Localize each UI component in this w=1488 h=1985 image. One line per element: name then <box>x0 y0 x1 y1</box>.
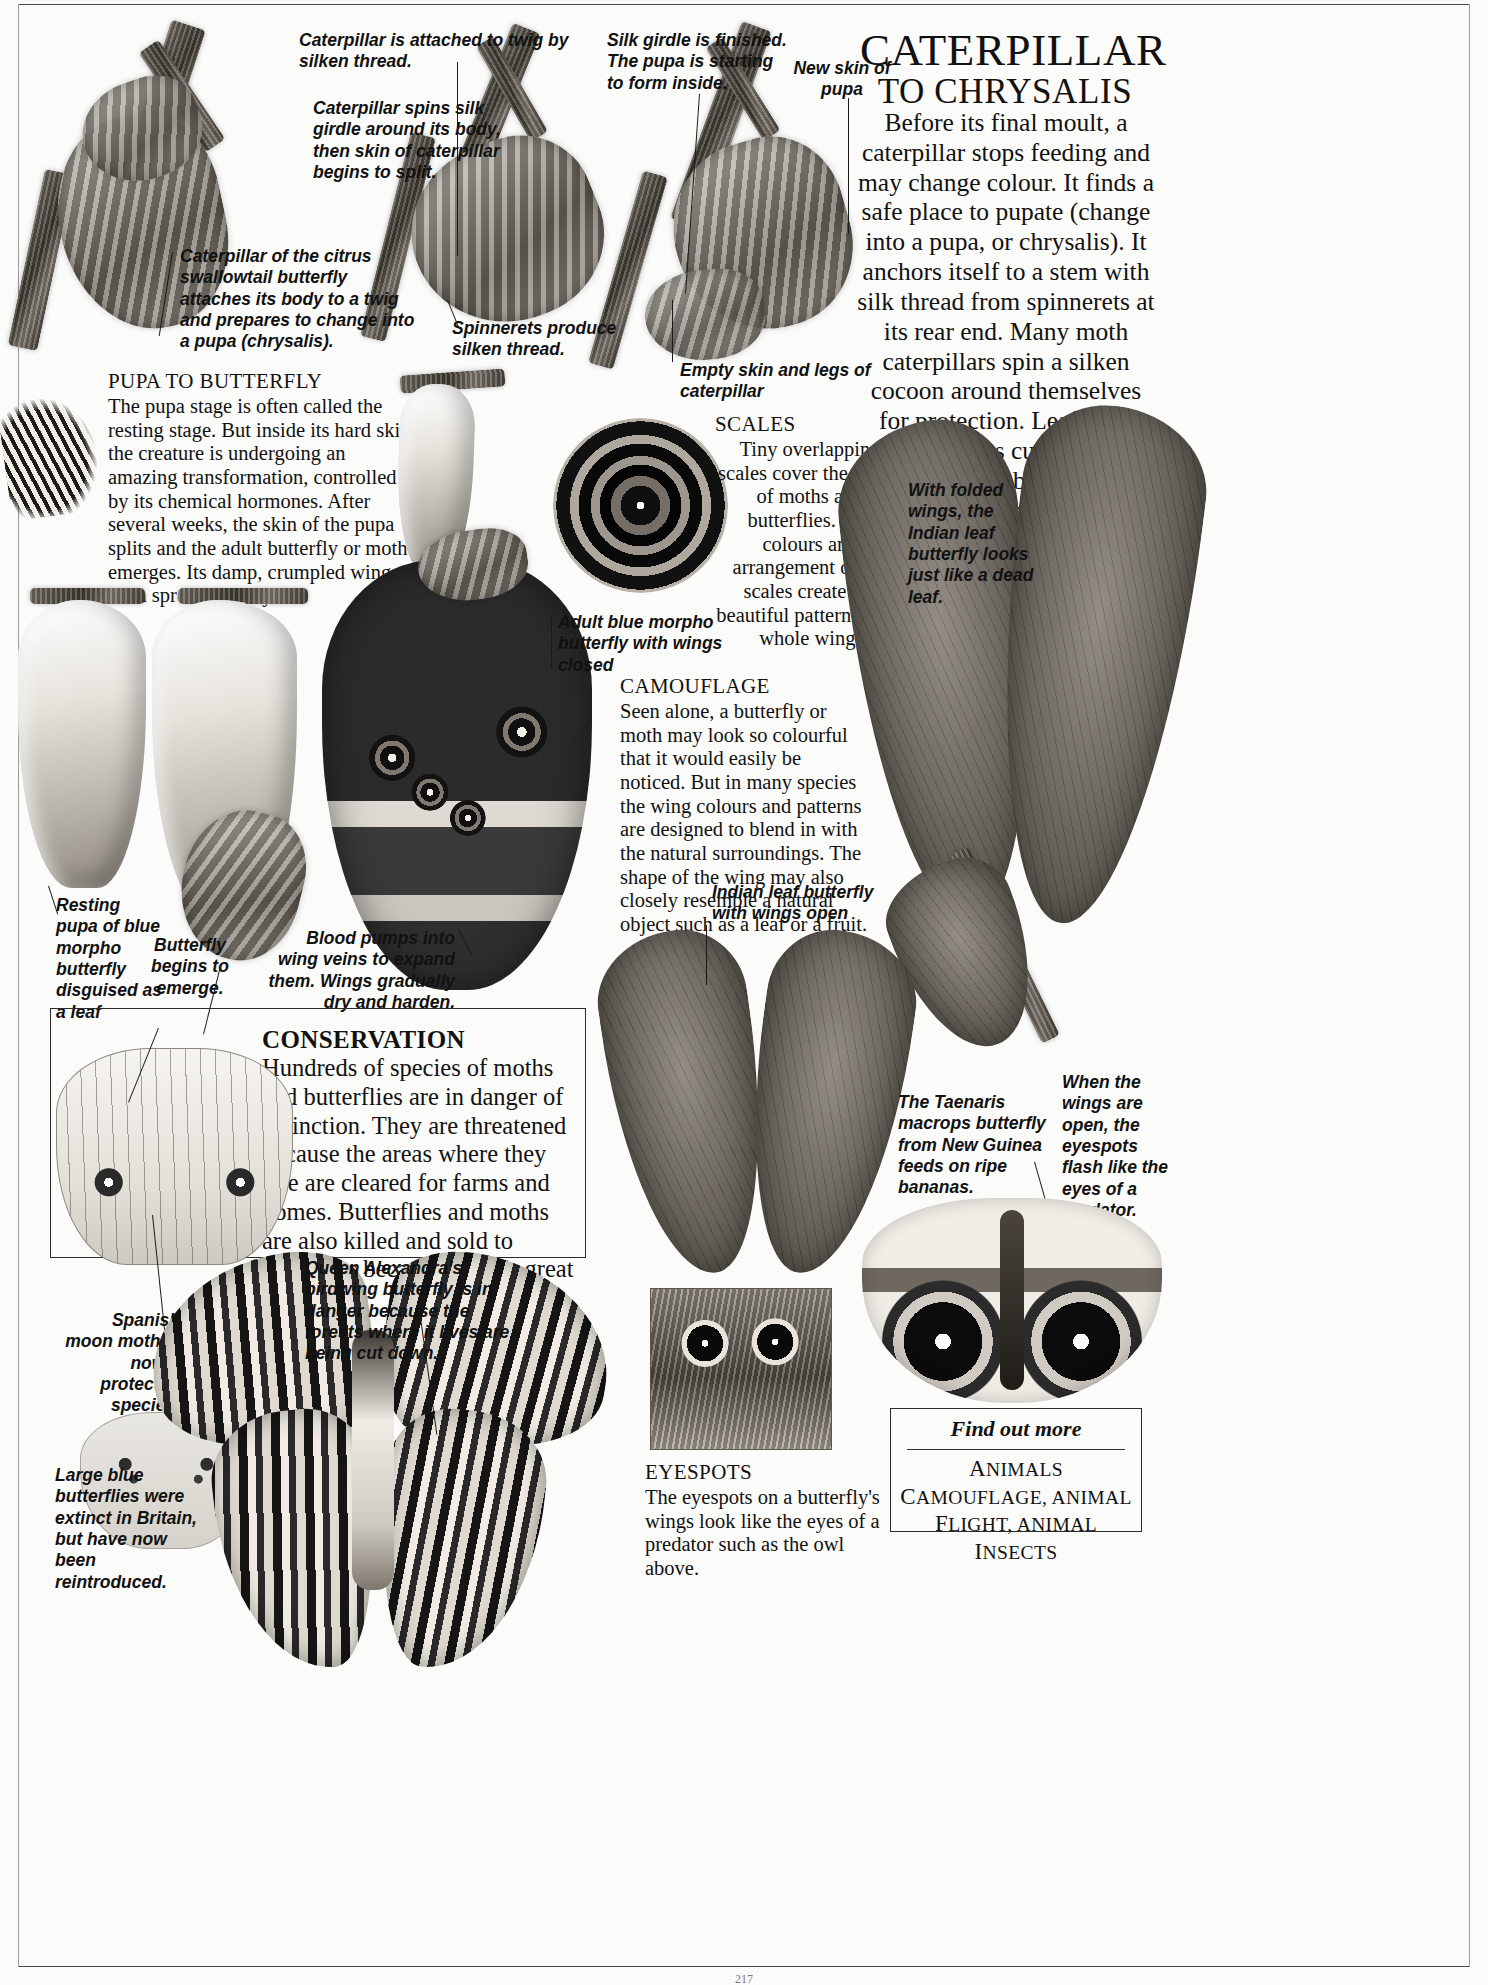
running-head: LIFE CYCLES AND REPRODUCTION <box>0 0 1488 2</box>
top-rule <box>18 4 1470 5</box>
photo-wing-scales-closeup <box>553 418 728 593</box>
folio-number: 217 <box>0 1972 1488 1985</box>
section-heading-eyespots: EYESPOTS <box>645 1460 880 1485</box>
section-eyespots: EYESPOTS The eyespots on a butterfly's w… <box>645 1460 880 1581</box>
caption-citrus-swallowtail: Caterpillar of the citrus swallowtail bu… <box>180 246 420 353</box>
caption-taenaris: The Taenaris macrops butterfly from New … <box>898 1092 1048 1199</box>
photo-birdwing-lower-right <box>367 1402 553 1677</box>
section-body-eyespots: The eyespots on a butterfly's wings look… <box>645 1486 880 1581</box>
find-out-more-list: Animals Camouflage, animal Flight, anima… <box>891 1455 1141 1573</box>
encyclopedia-page: LIFE CYCLES AND REPRODUCTION 217 Caterpi… <box>0 0 1488 1985</box>
photo-birdwing-body <box>352 1330 394 1590</box>
photo-twig-pupa-right <box>178 588 308 604</box>
caption-spinnerets: Spinnerets produce silken thread. <box>452 318 642 361</box>
photo-resting-pupa-1 <box>18 600 146 888</box>
section-heading-scales: SCALES <box>715 412 905 437</box>
section-pupa-to-butterfly: PUPA TO BUTTERFLY The pupa stage is ofte… <box>108 369 418 608</box>
page-title-line1: Caterpillar <box>860 25 1167 75</box>
leader-line <box>551 616 552 668</box>
bottom-rule <box>18 1966 1470 1967</box>
section-heading-camouflage: CAMOUFLAGE <box>620 674 870 699</box>
caption-indian-leaf-open: Indian leaf butterfly with wings open <box>712 882 902 925</box>
caption-spins-girdle: Caterpillar spins silk girdle around its… <box>313 98 528 183</box>
section-body-pupa-to-butterfly: The pupa stage is often called the resti… <box>108 395 418 608</box>
caption-queen-alexandra: Queen Alexandra's birdwing butterfly is … <box>305 1258 530 1365</box>
caption-butterfly-emerges: Butterfly begins to emerge. <box>140 935 240 999</box>
photo-taenaris-body <box>1000 1210 1024 1390</box>
find-out-more-item-camouflage[interactable]: Camouflage, animal <box>897 1483 1135 1511</box>
caption-blood-pumps: Blood pumps into wing veins to expand th… <box>265 928 455 1013</box>
leader-line <box>672 300 673 362</box>
leader-line <box>848 98 849 234</box>
caption-large-blue: Large blue butterflies were extinct in B… <box>55 1465 210 1593</box>
find-out-more-item-flight[interactable]: Flight, animal <box>897 1510 1135 1538</box>
section-heading-conservation: CONSERVATION <box>262 1026 580 1054</box>
divider <box>907 1449 1125 1450</box>
caption-attached-to-twig: Caterpillar is attached to twig by silke… <box>299 30 569 73</box>
find-out-more-item-animals[interactable]: Animals <box>897 1455 1135 1483</box>
caption-indian-leaf-folded: With folded wings, the Indian leaf butte… <box>908 480 1048 608</box>
section-heading-pupa-to-butterfly: PUPA TO BUTTERFLY <box>108 369 418 394</box>
caption-eyespots-flash: When the wings are open, the eyespots fl… <box>1062 1072 1172 1221</box>
find-out-more-title: Find out more <box>891 1409 1141 1442</box>
photo-owl-face <box>650 1288 832 1450</box>
find-out-more-box: Find out more Animals Camouflage, animal… <box>890 1408 1142 1532</box>
photo-spanish-moon-moth <box>56 1048 293 1265</box>
page-title: Caterpillar to Chrysalis <box>860 28 1150 110</box>
find-out-more-item-insects[interactable]: Insects <box>897 1538 1135 1566</box>
right-rule <box>1469 4 1470 1967</box>
page-title-line2: to Chrysalis <box>878 72 1133 111</box>
photo-swallowtail-small <box>0 392 104 522</box>
leader-line <box>706 925 707 985</box>
caption-silk-girdle-finished: Silk girdle is finished. The pupa is sta… <box>607 30 787 94</box>
caption-adult-blue-morpho: Adult blue morpho butterfly with wings c… <box>558 612 773 676</box>
